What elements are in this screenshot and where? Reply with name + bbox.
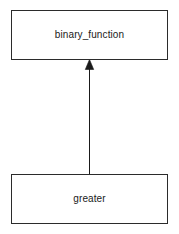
- class-node-greater[interactable]: greater: [11, 174, 168, 224]
- class-node-label: binary_function: [55, 29, 124, 41]
- generalization-edge-greater-to-binary-function: [85, 60, 93, 175]
- class-node-label: greater: [73, 193, 105, 205]
- generalization-arrowhead-icon: [85, 60, 93, 70]
- class-node-binary-function[interactable]: binary_function: [11, 10, 168, 60]
- inheritance-diagram: binary_function greater: [0, 0, 179, 234]
